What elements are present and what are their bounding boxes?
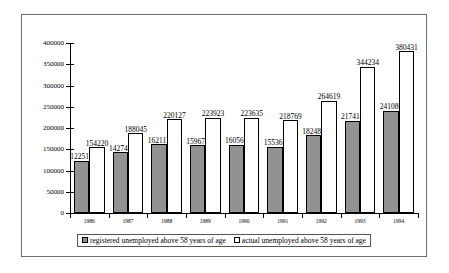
x-axis-tick [302,213,303,218]
y-axis-tick-label: 400000 [43,40,64,47]
x-axis-tick [341,213,342,218]
bar-group: 241080380431 [379,43,418,213]
bar-registered: 162117 [151,144,166,213]
legend-swatch-actual-icon [234,237,240,243]
bar-actual: 188045 [128,133,143,213]
y-axis-tick-label: 350000 [43,61,64,68]
x-axis-category-label: 1991 [277,219,288,225]
y-axis-tick-label: 250000 [43,103,64,110]
bar-registered: 142744 [113,152,128,213]
bar-actual: 223923 [205,118,220,213]
bar-actual: 264619 [321,101,336,213]
bar-registered: 155361 [267,147,282,213]
x-axis-category-label: 1988 [161,219,172,225]
legend-label-actual: actual unemployed above 58 years of age [242,237,366,245]
bar-group: 122510154220 [70,43,109,213]
chart-legend: registered unemployed above 58 years of … [77,234,371,248]
bar-value-label: 264619 [318,93,341,101]
bar-group: 217414344234 [341,43,380,213]
bar-actual: 218769 [283,120,298,213]
chart-frame: 0500001000001500002000002500003000003500… [21,14,427,257]
x-axis-tick [70,213,71,218]
x-axis-tick [186,213,187,218]
x-axis-category-label: 1989 [200,219,211,225]
y-axis-tick-label: 200000 [43,125,64,132]
bar-registered: 160561 [229,145,244,213]
bar-value-label: 344234 [356,59,379,67]
y-axis-tick-label: 0 [61,210,65,217]
x-axis-category-label: 1990 [239,219,250,225]
x-axis-category-label: 1987 [123,219,134,225]
x-axis-tick [379,213,380,218]
bar-group: 142744188045 [109,43,148,213]
bar-registered: 241080 [383,111,398,213]
x-axis-tick [109,213,110,218]
y-axis-tick-label: 150000 [43,146,64,153]
bar-value-label: 380431 [395,44,418,52]
bar-group: 159672223923 [186,43,225,213]
legend-item-actual: actual unemployed above 58 years of age [234,237,366,245]
bar-group: 162117220127 [147,43,186,213]
bar-value-label: 188045 [124,126,147,134]
bar-group: 155361218769 [263,43,302,213]
bar-actual: 223635 [244,118,259,213]
y-axis-tick-label: 300000 [43,82,64,89]
bar-registered: 159672 [190,145,205,213]
x-axis-category-label: 1993 [355,219,366,225]
y-axis-tick-label: 50000 [47,188,65,195]
bar-registered: 182480 [306,135,321,213]
x-axis-category-label: 1986 [84,219,95,225]
bar-value-label: 223635 [240,110,263,118]
legend-item-registered: registered unemployed above 58 years of … [82,237,226,245]
bar-value-label: 154220 [86,140,109,148]
bar-value-label: 218769 [279,113,302,121]
bar-actual: 344234 [360,67,375,213]
x-axis-tick [147,213,148,218]
bar-actual: 220127 [167,119,182,213]
y-axis-tick-label: 100000 [43,167,64,174]
bar-registered: 217414 [345,121,360,213]
bar-group: 160561223635 [225,43,264,213]
bar-actual: 380431 [399,51,414,213]
x-axis-tick [263,213,264,218]
x-axis-tick [418,213,419,218]
bar-registered: 122510 [74,161,89,213]
x-axis-line [70,213,418,214]
plot-area: 0500001000001500002000002500003000003500… [70,43,418,213]
x-axis-tick [225,213,226,218]
x-axis-category-label: 1994 [393,219,404,225]
bar-value-label: 220127 [163,112,186,120]
bar-group: 182480264619 [302,43,341,213]
x-axis-category-label: 1992 [316,219,327,225]
legend-swatch-registered-icon [82,237,88,243]
legend-label-registered: registered unemployed above 58 years of … [90,237,226,245]
bar-actual: 154220 [89,147,104,213]
bar-value-label: 223923 [202,110,225,118]
